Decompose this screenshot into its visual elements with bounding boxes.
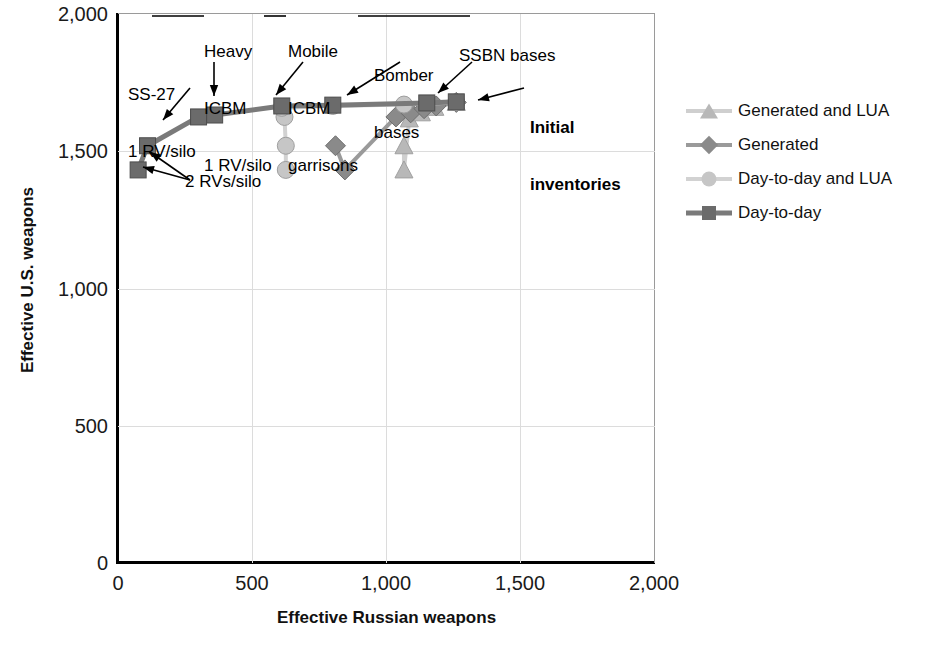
annotation-ss27-line1: SS-27 — [128, 85, 196, 104]
y-tick-labels: 2,000 1,500 1,000 500 0 — [0, 0, 108, 651]
y-tick-1000: 1,000 — [58, 278, 108, 301]
y-tick-0: 0 — [97, 552, 108, 575]
annotation-bomber-line1: Bomber — [374, 66, 434, 85]
square-icon — [686, 202, 732, 224]
annotation-mobile-line2: ICBM — [288, 99, 358, 118]
legend-label: Day-to-day and LUA — [738, 169, 892, 189]
legend-item-generated-and-lua[interactable]: Generated and LUA — [686, 98, 944, 124]
legend-item-day-to-day-and-lua[interactable]: Day-to-day and LUA — [686, 166, 944, 192]
annotation-initial-line1: Initial — [530, 118, 621, 137]
y-tick-500: 500 — [75, 415, 108, 438]
legend-item-generated[interactable]: Generated — [686, 132, 944, 158]
annotation-mobile-icbm: Mobile ICBM garrisons — [288, 4, 358, 213]
legend-item-day-to-day[interactable]: Day-to-day — [686, 200, 944, 226]
gridline-y-500 — [118, 426, 655, 427]
gridline-y-1000 — [118, 289, 655, 290]
x-tick-500: 500 — [235, 572, 268, 595]
y-axis-title: Effective U.S. weapons — [18, 100, 38, 460]
annotation-bomber-bases: Bomber bases — [374, 28, 434, 180]
annotation-initial-line2: inventories — [530, 175, 621, 194]
annotation-bomber-line2: bases — [374, 123, 434, 142]
y-tick-1500: 1,500 — [58, 140, 108, 163]
annotation-heavy-line1: Heavy — [204, 42, 272, 61]
triangle-icon — [686, 100, 732, 122]
legend-label: Generated and LUA — [738, 101, 889, 121]
legend-label: Day-to-day — [738, 203, 821, 223]
annotation-mobile-line3: garrisons — [288, 156, 358, 175]
diamond-icon — [686, 134, 732, 156]
annotation-initial-inventories: Initial inventories — [530, 80, 621, 232]
x-tick-1000: 1,000 — [361, 572, 411, 595]
annotation-mobile-line1: Mobile — [288, 42, 358, 61]
circle-icon — [686, 168, 732, 190]
chart-root: 2,000 1,500 1,000 500 0 0 500 1,000 1,50… — [0, 0, 951, 651]
x-tick-2000: 2,000 — [629, 572, 679, 595]
annotation-ss27-line2: 1 RV/silo — [128, 142, 196, 161]
annotation-two-rvs: 2 RVs/silo — [185, 172, 261, 191]
legend: Generated and LUA Generated Day-to-day a… — [686, 98, 944, 234]
x-tick-1500: 1,500 — [495, 572, 545, 595]
y-tick-2000: 2,000 — [58, 3, 108, 26]
x-axis-title: Effective Russian weapons — [118, 608, 655, 628]
legend-label: Generated — [738, 135, 818, 155]
annotation-heavy-line2: ICBM — [204, 99, 272, 118]
annotation-ssbn-bases: SSBN bases — [459, 46, 555, 65]
x-tick-0: 0 — [112, 572, 123, 595]
